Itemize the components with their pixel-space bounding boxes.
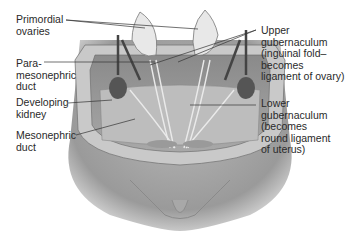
kidney-left: [109, 77, 127, 99]
label-upper-gubernaculum: Upper gubernaculum (inguinal fold– becom…: [261, 25, 344, 83]
kidney-right: [237, 77, 255, 99]
label-primordial-ovaries: Primordial ovaries: [16, 14, 63, 37]
label-mesonephric-duct: Mesonephric duct: [16, 130, 76, 153]
label-lower-gubernaculum: Lower gubernaculum (becomes round ligame…: [261, 98, 330, 156]
label-paramesonephric-duct: Para- mesonephric duct: [16, 58, 76, 93]
label-developing-kidney: Developing kidney: [16, 97, 69, 120]
